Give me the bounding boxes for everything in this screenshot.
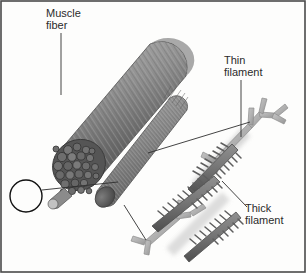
- diagram-canvas: Muscle fiber Thin filament Thick filamen…: [0, 0, 306, 273]
- label-thin-filament-line2: filament: [224, 66, 263, 78]
- label-thin-filament-line1: Thin: [224, 54, 245, 66]
- label-thick-filament-line1: Thick: [245, 202, 272, 214]
- label-muscle-fiber-line1: Muscle: [46, 7, 81, 19]
- muscle-fiber-diagram: Muscle fiber Thin filament Thick filamen…: [0, 0, 306, 273]
- label-muscle-fiber-line2: fiber: [46, 19, 68, 31]
- label-thick-filament-line2: filament: [245, 214, 284, 226]
